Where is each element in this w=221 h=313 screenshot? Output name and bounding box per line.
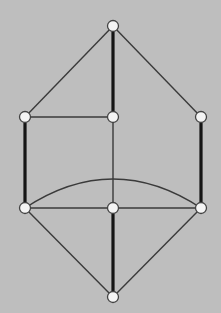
node-right-mid [196,112,207,123]
node-top [108,21,119,32]
node-center-low [108,203,119,214]
background [0,0,221,313]
node-right-low [196,203,207,214]
node-bottom [108,292,119,303]
node-left-low [20,203,31,214]
graph-diagram [0,0,221,313]
node-center-mid [108,112,119,123]
node-left-mid [20,112,31,123]
